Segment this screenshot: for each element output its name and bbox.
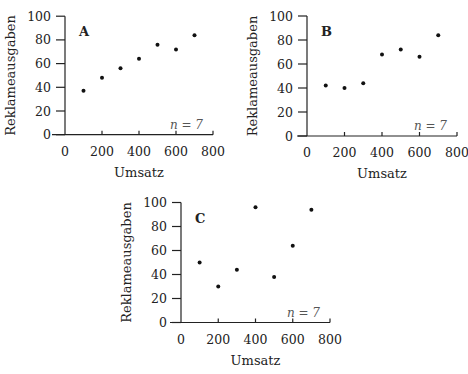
panel-label: B [321,24,332,39]
data-point [361,81,365,85]
data-point [254,205,258,209]
x-tick-label: 400 [127,144,151,159]
data-point [291,244,295,248]
y-tick-label: 20 [151,291,167,306]
y-tick-label: 60 [277,57,293,72]
x-tick-label: 200 [206,332,230,347]
data-point [156,43,160,47]
y-tick-label: 0 [43,127,51,142]
y-tick-label: 40 [277,81,293,96]
y-tick-label: 100 [27,9,51,24]
data-point [343,86,347,90]
x-tick-label: 200 [90,144,114,159]
x-axis-title: Umsatz [231,353,281,368]
scatter-panel-b: 0204060801000200400600800UmsatzReklameau… [245,9,468,182]
y-tick-label: 0 [285,129,293,144]
sample-size-annotation: n = 7 [170,118,203,132]
y-tick-label: 60 [151,243,167,258]
y-tick-label: 0 [159,315,167,330]
y-tick-label: 80 [277,33,293,48]
y-tick-label: 40 [151,267,167,282]
data-point [235,268,239,272]
x-tick-label: 0 [303,145,311,160]
x-tick-label: 0 [177,332,185,347]
data-point [119,66,123,70]
sample-size-annotation: n = 7 [414,119,447,133]
data-point [436,33,440,37]
x-tick-label: 0 [61,144,69,159]
x-tick-label: 400 [370,145,394,160]
x-tick-label: 600 [164,144,188,159]
data-point [82,89,86,93]
x-tick-label: 800 [445,145,468,160]
data-point [399,48,403,52]
y-tick-label: 20 [277,105,293,120]
data-point [193,33,197,37]
y-tick-label: 80 [35,32,51,47]
x-tick-label: 800 [201,144,225,159]
data-point [100,76,104,80]
x-axis-title: Umsatz [114,165,164,180]
y-tick-label: 20 [35,104,51,119]
data-point [272,275,276,279]
x-tick-label: 600 [281,332,305,347]
x-tick-label: 400 [244,332,268,347]
panel-label: C [195,211,205,226]
data-point [418,55,422,59]
scatter-panel-a: 0204060801000200400600800UmsatzReklameau… [3,9,225,180]
x-tick-label: 800 [318,332,342,347]
y-tick-label: 60 [35,56,51,71]
data-point [324,84,328,88]
y-tick-label: 40 [35,80,51,95]
data-point [216,285,220,289]
y-axis-title: Reklameausgaben [119,202,134,323]
x-axis-title: Umsatz [357,166,407,181]
data-point [198,261,202,265]
scatter-plot-figure: 0204060801000200400600800UmsatzReklameau… [0,0,468,374]
y-tick-label: 100 [269,9,293,24]
x-tick-label: 200 [333,145,357,160]
y-axis-title: Reklameausgaben [3,15,18,136]
data-point [174,47,178,51]
data-point [137,57,141,61]
scatter-panel-c: 0204060801000200400600800UmsatzReklameau… [119,195,342,368]
sample-size-annotation: n = 7 [287,306,320,320]
panel-label: A [78,24,90,39]
y-tick-label: 100 [143,195,167,210]
y-tick-label: 80 [151,219,167,234]
x-tick-label: 600 [408,145,432,160]
data-point [309,208,313,212]
y-axis-title: Reklameausgaben [245,15,260,136]
data-point [380,52,384,56]
